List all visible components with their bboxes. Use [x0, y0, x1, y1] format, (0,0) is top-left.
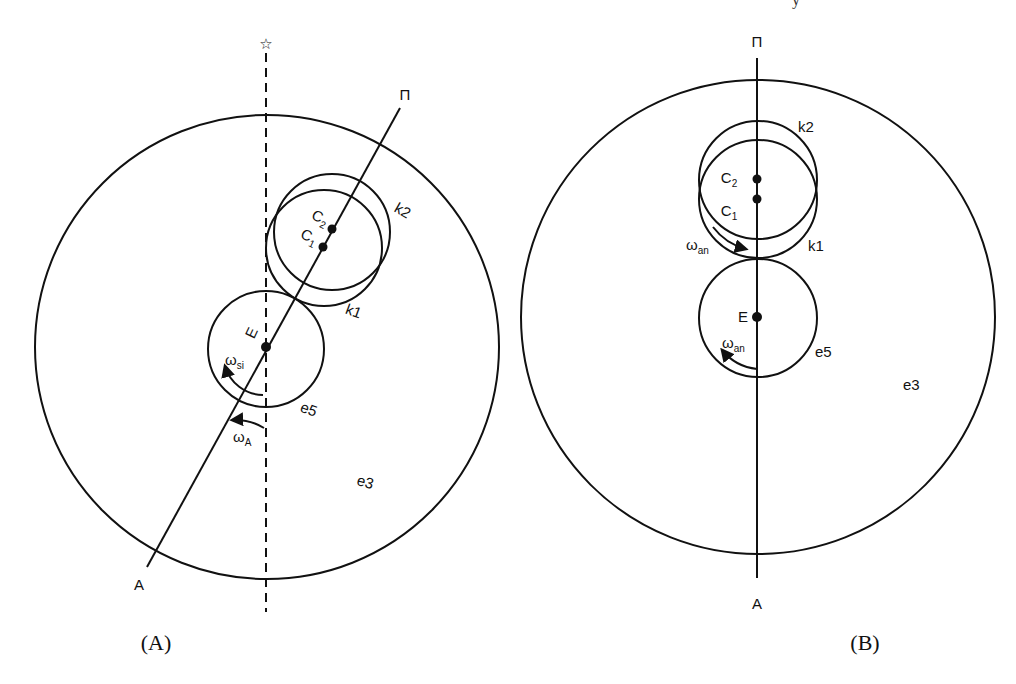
c1-label: C1: [297, 225, 321, 250]
point-c2: [753, 175, 762, 184]
omega-si-arrow: [225, 366, 263, 395]
panel-b-caption: (B): [850, 630, 879, 655]
omega-an-upper-arrow: [713, 227, 746, 249]
omega-an-upper-label: ωan: [686, 236, 709, 256]
axis-top-label: Π: [400, 86, 411, 103]
axis-top-label: Π: [752, 33, 763, 50]
c2-label: C2: [721, 169, 738, 189]
point-e: [752, 312, 762, 322]
e3-label: e3: [355, 471, 376, 492]
panel-a-caption: (A): [141, 630, 172, 655]
omega-si-label: ωsi: [225, 351, 244, 371]
panel-a: [35, 53, 499, 612]
e-label: E: [241, 325, 261, 341]
axis-line: [147, 108, 400, 567]
k1-label: k1: [344, 300, 365, 321]
e5-label: e5: [815, 343, 832, 360]
reference-star-label: ☆: [259, 35, 272, 52]
figure: ☆ Π A C2 C1 k2 k1 E e5 e3 ωsi ωA (A) Π A…: [0, 0, 1016, 684]
point-c1: [753, 195, 762, 204]
e-label: E: [738, 308, 748, 325]
point-c1: [319, 243, 328, 252]
c1-label: C1: [721, 202, 738, 222]
k2-label: k2: [392, 199, 414, 222]
e5-label: e5: [298, 398, 319, 420]
omega-a-label: ωA: [233, 428, 252, 448]
omega-a-arrow: [232, 420, 264, 428]
e3-label: e3: [903, 376, 920, 393]
point-c2: [328, 225, 337, 234]
k2-label: k2: [798, 118, 814, 135]
axis-bottom-label: A: [752, 595, 762, 612]
axis-bottom-label: A: [134, 576, 144, 593]
omega-an-lower-label: ωan: [722, 334, 745, 354]
k1-label: k1: [808, 237, 824, 254]
point-e: [261, 342, 271, 352]
